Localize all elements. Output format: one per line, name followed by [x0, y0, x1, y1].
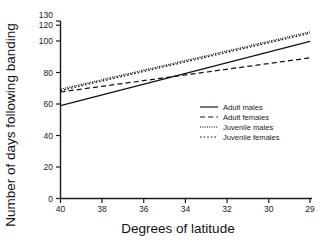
y-tick-label-20: 20 [44, 162, 54, 172]
legend-label-juvenile-females: Juvenile females [223, 133, 280, 142]
line-chart-canvas: Number of days following banding Degrees… [0, 0, 327, 242]
x-tick-label-34: 34 [181, 204, 191, 214]
legend-label-adult-males: Adult males [223, 103, 263, 112]
x-tick-label-30: 30 [264, 204, 274, 214]
y-tick-label-40: 40 [44, 131, 54, 141]
x-tick-label-36: 36 [139, 204, 149, 214]
x-tick-label-40: 40 [56, 204, 66, 214]
y-axis-title: Number of days following banding [3, 23, 18, 226]
y-tick-label-130: 130 [39, 10, 53, 20]
x-tick-label-29: 29 [305, 204, 315, 214]
y-tick-label-60: 60 [44, 99, 54, 109]
legend-label-adult-females: Adult females [223, 113, 269, 122]
y-tick-label-80: 80 [44, 68, 54, 78]
chart-figure: Number of days following banding Degrees… [0, 0, 327, 242]
legend-label-juvenile-males: Juvenile males [223, 123, 273, 132]
y-tick-label-0: 0 [48, 194, 53, 204]
x-axis-title: Degrees of latitude [121, 221, 234, 236]
y-tick-label-120: 120 [39, 20, 53, 30]
x-tick-label-32: 32 [222, 204, 232, 214]
x-tick-label-38: 38 [97, 204, 107, 214]
y-tick-label-100: 100 [39, 36, 53, 46]
